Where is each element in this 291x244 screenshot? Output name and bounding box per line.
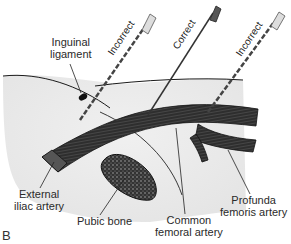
label-line-2: femoris artery	[220, 206, 287, 218]
needle-label-incorrect-left: Incorrect	[106, 19, 137, 58]
label-pubic-bone: Pubic bone	[77, 215, 132, 227]
label-line-2: iliac artery	[14, 200, 64, 212]
needle-label-incorrect-right: Incorrect	[234, 20, 265, 59]
needle-hub-right	[271, 12, 285, 30]
femoral-access-diagram: Incorrect Correct Incorrect Inguinal lig…	[0, 0, 291, 244]
label-external-iliac-artery: External iliac artery	[14, 188, 64, 212]
label-line-1: Profunda	[220, 194, 287, 206]
label-profunda-femoris-artery: Profunda femoris artery	[220, 194, 287, 218]
panel-letter: B	[2, 228, 11, 243]
needle-hub-left	[142, 14, 156, 34]
label-line-1: External	[14, 188, 64, 200]
label-line-1: Inguinal	[50, 36, 92, 48]
label-line-2: femoral artery	[155, 226, 223, 238]
label-inguinal-ligament: Inguinal ligament	[50, 36, 92, 60]
label-common-femoral-artery: Common femoral artery	[155, 214, 223, 238]
label-line-2: ligament	[50, 48, 92, 60]
needle-label-correct: Correct	[170, 17, 197, 51]
label-line-1: Common	[155, 214, 223, 226]
